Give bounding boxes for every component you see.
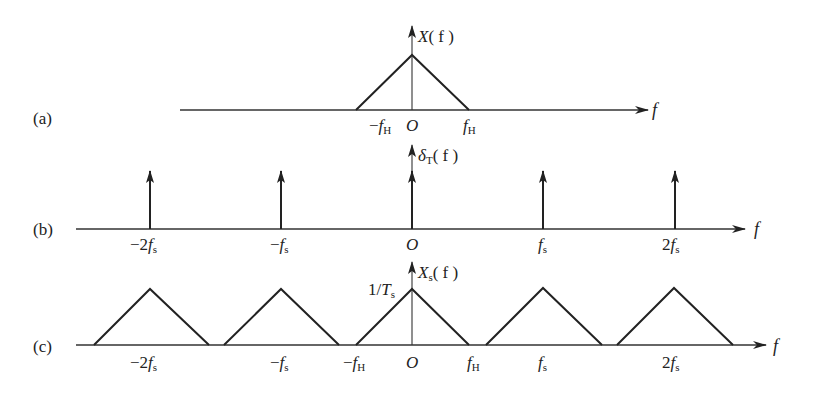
tick-neg-fH: −fH (369, 116, 391, 136)
panel-c: (c) f Xs( f ) 1/Ts −2fs −fs −fH O fH fs … (33, 262, 781, 373)
tick-origin: O (406, 353, 418, 372)
tick-neg-2fs: −2fs (130, 353, 157, 373)
x-axis-label: f (652, 100, 660, 120)
spectrum-replica-neg-2fs (94, 289, 209, 345)
tick-neg-fs: −fs (270, 235, 289, 255)
panel-a: (a) f X( f ) −fH O fH (33, 26, 660, 136)
x-axis-label: f (754, 219, 762, 239)
panel-b-label: (b) (33, 220, 53, 239)
y-axis-label: Xs( f ) (417, 263, 458, 283)
tick-neg-fs: −fs (270, 353, 289, 373)
tick-neg-2fs: −2fs (130, 235, 157, 255)
tick-fH: fH (463, 116, 476, 136)
peak-label: 1/Ts (368, 280, 395, 300)
y-axis-label: δT( f ) (418, 146, 458, 166)
x-axis-label: f (773, 336, 781, 356)
tick-2fs: 2fs (662, 353, 680, 373)
tick-origin: O (406, 235, 418, 254)
tick-fs: fs (538, 353, 547, 373)
tick-origin: O (406, 116, 418, 135)
spectrum-replica-2fs (617, 288, 733, 345)
sampling-spectrum-diagram: (a) f X( f ) −fH O fH (b) f δT( f ) −2fs… (0, 0, 814, 395)
spectrum-replica-neg-fs (224, 289, 339, 345)
panel-b: (b) f δT( f ) −2fs −fs O fs 2fs (33, 145, 762, 255)
spectrum-replica-fs (486, 288, 602, 345)
tick-fs: fs (538, 235, 547, 255)
tick-fH: fH (467, 353, 480, 373)
y-axis-label: X( f ) (417, 27, 454, 46)
tick-neg-fH: −fH (343, 353, 365, 373)
panel-a-label: (a) (33, 109, 52, 128)
panel-c-label: (c) (33, 337, 52, 356)
tick-2fs: 2fs (662, 235, 680, 255)
